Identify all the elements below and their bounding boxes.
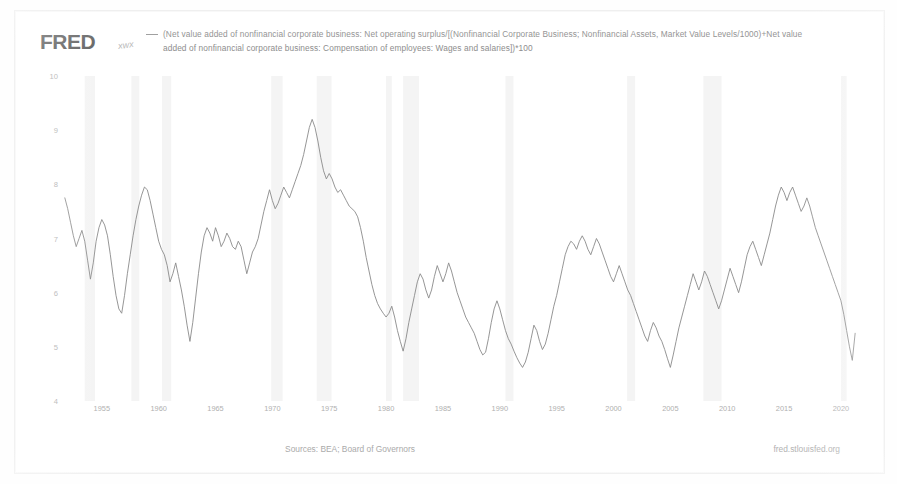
fred-url-label[interactable]: fred.stlouisfed.org [773, 444, 840, 454]
y-axis-tick-label: 5 [40, 342, 58, 351]
recession-shading-group [85, 76, 847, 401]
x-axis-tick-label: 1985 [435, 404, 451, 413]
plot-area: 45678910 [40, 76, 858, 401]
x-axis: 1955196019651970197519801985199019952000… [62, 404, 858, 418]
line-chart-svg [62, 76, 858, 401]
recession-band [317, 76, 332, 401]
x-axis-tick-label: 2015 [776, 404, 792, 413]
y-axis-tick-label: 6 [40, 288, 58, 297]
x-axis-tick-label: 1965 [207, 404, 223, 413]
x-axis-tick-label: 1960 [150, 404, 166, 413]
y-axis-tick-label: 8 [40, 180, 58, 189]
y-axis-tick-label: 7 [40, 234, 58, 243]
y-axis-tick-label: 10 [40, 72, 58, 81]
x-axis-tick-label: 1980 [378, 404, 394, 413]
recession-band [386, 76, 392, 401]
x-axis-tick-label: 2005 [662, 404, 678, 413]
x-axis-tick-label: 1955 [94, 404, 110, 413]
fred-logo: FRED [40, 30, 95, 54]
recession-band [85, 76, 95, 401]
recession-band [403, 76, 419, 401]
legend-series-label: (Net value added of nonfinancial corpora… [163, 28, 823, 55]
recession-band [271, 76, 282, 401]
x-axis-tick-label: 2010 [719, 404, 735, 413]
recession-band [703, 76, 721, 401]
x-axis-tick-label: 1970 [264, 404, 280, 413]
recession-band [841, 76, 847, 401]
y-axis-tick-label: 9 [40, 126, 58, 135]
data-series-line [65, 119, 855, 367]
x-axis-tick-label: 2020 [833, 404, 849, 413]
scanned-page: FRED xwx (Net value added of nonfinancia… [0, 0, 897, 484]
legend-line-swatch-icon [146, 34, 158, 35]
x-axis-tick-label: 1990 [492, 404, 508, 413]
y-axis-tick-label: 4 [40, 397, 58, 406]
fred-script-mark-icon: xwx [117, 39, 134, 51]
recession-band [505, 76, 513, 401]
recession-band [627, 76, 635, 401]
chart-header: FRED xwx (Net value added of nonfinancia… [40, 28, 840, 74]
x-axis-tick-label: 2000 [605, 404, 621, 413]
chart-legend[interactable]: (Net value added of nonfinancial corpora… [146, 28, 846, 55]
x-axis-tick-label: 1975 [321, 404, 337, 413]
x-axis-tick-label: 1995 [548, 404, 564, 413]
sources-label: Sources: BEA; Board of Governors [40, 444, 660, 454]
recession-band [162, 76, 171, 401]
chart-footer: Sources: BEA; Board of Governors fred.st… [40, 444, 858, 460]
chart-canvas[interactable] [62, 76, 858, 401]
